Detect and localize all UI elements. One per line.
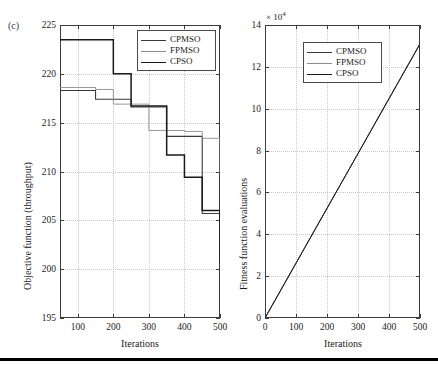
series-line-fpmso — [60, 88, 220, 173]
x-axis-tick-label: 400 — [382, 322, 396, 332]
y-axis-exponent-power: 4 — [282, 10, 286, 18]
x-axis-tick-label: 0 — [263, 322, 268, 332]
y-axis-title-fitness-chart: Fitness function evaluations — [238, 178, 249, 290]
x-axis-tick-label: 500 — [213, 322, 227, 332]
figure-canvas: (c) 195200205210215220225100200300400500… — [0, 0, 438, 366]
x-axis-tick-label: 300 — [142, 322, 156, 332]
y-axis-title-objective-chart: Objective function (throughput) — [22, 162, 33, 290]
y-axis-tick-label: 8 — [231, 146, 261, 156]
legend-label-cpmso: CPMSO — [336, 46, 367, 57]
legend-item-cpmso[interactable]: CPMSO — [307, 46, 377, 57]
legend-item-fpmso[interactable]: FPMSO — [307, 57, 377, 68]
x-axis-tick — [420, 314, 421, 318]
x-axis-tick-label: 500 — [413, 322, 427, 332]
legend-fitness-chart: CPMSOFPMSOCPSO — [303, 42, 382, 83]
x-axis-tick-label: 200 — [106, 322, 120, 332]
y-axis-tick — [416, 318, 420, 319]
legend-label-cpmso: CPMSO — [170, 34, 201, 45]
legend-item-cpmso[interactable]: CPMSO — [141, 34, 211, 45]
x-axis-title-objective-chart: Iterations — [121, 338, 159, 349]
y-axis-exponent-mantissa: × 10 — [266, 12, 282, 22]
y-axis-tick — [216, 318, 220, 319]
y-axis-tick-label: 10 — [231, 104, 261, 114]
legend-item-cpso[interactable]: CPSO — [141, 56, 211, 67]
x-axis-tick-label: 100 — [289, 322, 303, 332]
y-axis-exponent-label: × 104 — [266, 10, 286, 22]
x-axis-tick-label: 100 — [71, 322, 85, 332]
legend-item-fpmso[interactable]: FPMSO — [141, 45, 211, 56]
series-line-cpso — [60, 40, 220, 264]
x-axis-tick-label: 300 — [351, 322, 365, 332]
legend-item-cpso[interactable]: CPSO — [307, 68, 377, 79]
x-axis-tick — [220, 25, 221, 29]
y-axis-tick-label: 14 — [231, 20, 261, 30]
bottom-divider-rule — [0, 358, 438, 361]
y-axis-tick — [60, 318, 64, 319]
y-axis-tick-label: 220 — [26, 69, 56, 79]
y-axis-tick-label: 215 — [26, 118, 56, 128]
legend-label-fpmso: FPMSO — [170, 45, 200, 56]
legend-label-cpso: CPSO — [170, 56, 193, 67]
x-axis-tick — [420, 25, 421, 29]
x-axis-tick-label: 400 — [177, 322, 191, 332]
y-axis-tick-label: 225 — [26, 20, 56, 30]
series-line-cpmso — [60, 90, 220, 244]
y-axis-tick — [265, 318, 269, 319]
legend-label-cpso: CPSO — [336, 68, 359, 79]
x-axis-tick — [220, 314, 221, 318]
y-axis-tick-label: 195 — [26, 313, 56, 323]
series-line-cpso — [265, 44, 420, 318]
x-axis-title-fitness-chart: Iterations — [324, 338, 362, 349]
y-axis-tick-label: 12 — [231, 62, 261, 72]
y-axis-tick-label: 0 — [231, 313, 261, 323]
legend-objective-chart: CPMSOFPMSOCPSO — [137, 30, 216, 71]
x-axis-tick-label: 200 — [320, 322, 334, 332]
legend-label-fpmso: FPMSO — [336, 57, 366, 68]
panel-label-c: (c) — [8, 20, 19, 31]
